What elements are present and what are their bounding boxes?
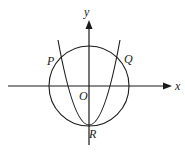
point-q-label: Q: [124, 53, 133, 65]
origin-label: O: [79, 90, 88, 102]
diagram-figure: y x O P Q R: [0, 0, 185, 154]
x-axis-arrow-icon: [163, 83, 172, 90]
y-axis-arrow-icon: [86, 20, 93, 29]
y-axis-label: y: [84, 6, 89, 18]
point-r-label: R: [89, 128, 96, 140]
x-axis-label: x: [175, 80, 180, 92]
point-p-label: P: [47, 55, 54, 67]
